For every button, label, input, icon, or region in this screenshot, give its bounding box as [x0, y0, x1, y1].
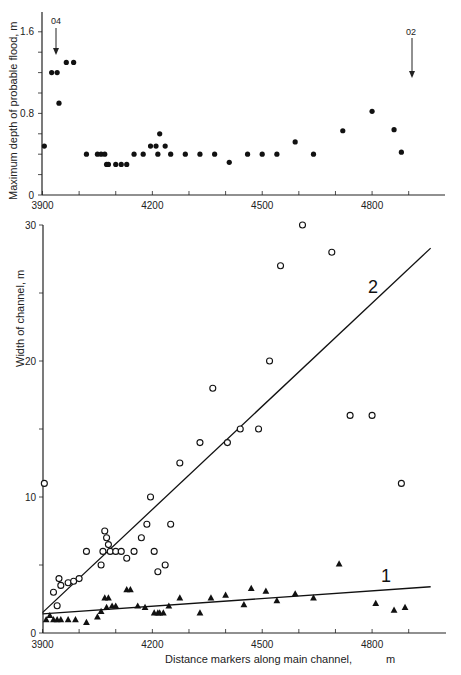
svg-text:0.8: 0.8 — [20, 108, 34, 119]
svg-text:30: 30 — [25, 220, 37, 231]
svg-text:4800: 4800 — [361, 200, 384, 211]
fit-lines — [43, 248, 431, 614]
svg-text:3900: 3900 — [31, 200, 54, 211]
svg-text:1.6: 1.6 — [20, 26, 34, 37]
bottom-x-axis-title: Distance markers along main channel, — [165, 653, 352, 665]
svg-text:3900: 3900 — [31, 639, 54, 650]
svg-text:10: 10 — [25, 492, 37, 503]
svg-text:0: 0 — [28, 190, 34, 201]
top-chart: 00.81.6 3900420045004800 Maximum depth o… — [7, 12, 445, 211]
line-1-label: 1 — [381, 566, 391, 586]
svg-text:20: 20 — [25, 356, 37, 367]
svg-text:4500: 4500 — [251, 639, 274, 650]
top-x-ticks: 3900420045004800 — [31, 191, 408, 211]
line-2-label: 2 — [368, 277, 378, 297]
bottom-x-axis-unit: m — [386, 653, 395, 665]
top-y-ticks: 00.81.6 — [20, 26, 42, 200]
top-data-points — [42, 60, 404, 167]
bottom-y-ticks: 0102030 — [25, 220, 43, 639]
marker-04-annotation: 04 — [51, 16, 61, 55]
marker-04-label: 04 — [51, 16, 61, 26]
marker-02-label: 02 — [406, 27, 416, 37]
svg-text:0: 0 — [30, 628, 36, 639]
bottom-y-axis-title: Width of channel, m — [14, 270, 26, 367]
svg-text:4800: 4800 — [361, 639, 384, 650]
svg-text:4200: 4200 — [141, 639, 164, 650]
marker-02-annotation: 02 — [406, 27, 416, 78]
chart-figure: 00.81.6 3900420045004800 Maximum depth o… — [0, 0, 461, 675]
svg-text:4200: 4200 — [141, 200, 164, 211]
bottom-data-points — [41, 222, 408, 625]
svg-text:4500: 4500 — [251, 200, 274, 211]
bottom-chart: 0102030 3900420045004800 Width of channe… — [14, 220, 446, 666]
top-y-axis-title: Maximum depth of probable flood, m — [7, 21, 19, 200]
bottom-x-ticks: 3900420045004800 — [31, 629, 408, 650]
